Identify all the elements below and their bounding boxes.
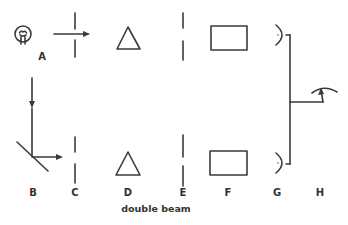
label-b: B — [29, 187, 37, 198]
bottom-prism — [116, 152, 140, 175]
top-beam-arrow — [54, 31, 90, 37]
label-c: C — [71, 187, 78, 198]
mirror-b — [17, 108, 63, 171]
top-sample-cell — [211, 26, 247, 50]
bottom-sample-cell — [210, 151, 247, 175]
meter-wiring — [286, 35, 323, 164]
top-detector — [276, 25, 282, 45]
label-g: G — [273, 187, 281, 198]
bottom-detector — [276, 153, 282, 173]
label-e: E — [180, 187, 187, 198]
lamp-icon — [15, 26, 31, 44]
label-h: H — [316, 187, 324, 198]
down-beam-arrow — [29, 78, 35, 108]
label-a: A — [38, 51, 46, 62]
double-beam-diagram: A B C D E F G H double beam — [0, 0, 348, 225]
top-prism — [117, 27, 140, 49]
caption: double beam — [121, 203, 191, 214]
label-f: F — [225, 187, 232, 198]
meter-icon — [312, 88, 337, 95]
label-d: D — [124, 187, 132, 198]
